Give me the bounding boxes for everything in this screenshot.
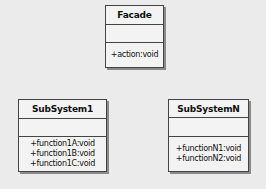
methods-section: +functionN1:void +functionN2:void: [169, 137, 248, 171]
attributes-section: [106, 25, 163, 43]
class-facade: Facade +action:void: [105, 5, 164, 68]
method: +action:void: [109, 50, 160, 60]
attributes-section: [19, 119, 106, 137]
method: +function1C:void: [22, 159, 103, 169]
method: +function1A:void: [22, 139, 103, 149]
method: +function1B:void: [22, 149, 103, 159]
class-subsystem-n: SubSystemN +functionN1:void +functionN2:…: [168, 99, 249, 172]
class-name: Facade: [106, 6, 163, 25]
method: +functionN1:void: [172, 144, 245, 154]
diagram-canvas: Facade +action:void SubSystem1 +function…: [0, 0, 266, 189]
methods-section: +action:void: [106, 43, 163, 67]
methods-section: +function1A:void +function1B:void +funct…: [19, 137, 106, 171]
method: +functionN2:void: [172, 154, 245, 164]
class-name: SubSystem1: [19, 100, 106, 119]
attributes-section: [169, 118, 248, 137]
class-name: SubSystemN: [169, 100, 248, 118]
class-subsystem-1: SubSystem1 +function1A:void +function1B:…: [18, 99, 107, 172]
